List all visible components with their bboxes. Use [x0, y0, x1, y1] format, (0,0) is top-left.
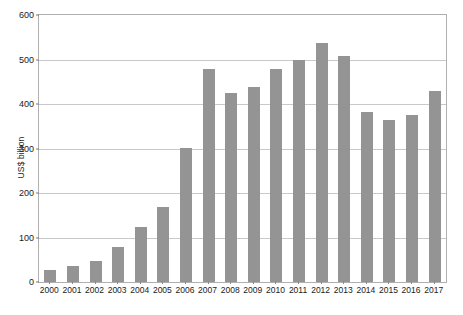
x-axis-tick-mark	[366, 281, 367, 284]
x-axis-tick-labels: 2000200120022003200420052006200720082009…	[38, 285, 447, 305]
x-axis-tick-label: 2000	[40, 285, 59, 295]
x-axis-tick-label: 2008	[221, 285, 240, 295]
x-axis-tick-label: 2001	[62, 285, 81, 295]
x-axis-tick-label: 2006	[176, 285, 195, 295]
x-axis-tick-label: 2010	[266, 285, 285, 295]
x-axis-tick-label: 2002	[85, 285, 104, 295]
bars	[39, 15, 446, 282]
x-axis-tick-label: 2004	[130, 285, 149, 295]
x-axis-tick-mark	[49, 281, 50, 284]
x-axis-tick-label: 2015	[379, 285, 398, 295]
bar[interactable]	[203, 69, 215, 282]
bar[interactable]	[157, 207, 169, 282]
bar[interactable]	[135, 227, 147, 282]
x-axis-tick-label: 2017	[424, 285, 443, 295]
bar-slot	[356, 15, 379, 282]
bar-slot	[401, 15, 424, 282]
bar[interactable]	[293, 60, 305, 282]
x-axis-tick-mark	[298, 281, 299, 284]
x-axis-tick-label: 2003	[108, 285, 127, 295]
y-axis-tick-label: 0	[29, 277, 34, 287]
x-axis-tick-mark	[140, 281, 141, 284]
x-axis-tick-label: 2011	[289, 285, 307, 295]
x-axis-tick-label: 2014	[356, 285, 375, 295]
y-axis-tick-label: 100	[19, 233, 34, 243]
x-axis-tick-mark	[434, 281, 435, 284]
x-axis-tick-label: 2007	[198, 285, 217, 295]
x-axis-tick-mark	[411, 281, 412, 284]
x-axis-tick-label: 2016	[402, 285, 421, 295]
bar-slot	[265, 15, 288, 282]
x-axis-tick-mark	[253, 281, 254, 284]
bar[interactable]	[44, 270, 56, 282]
bar-slot	[197, 15, 220, 282]
bar-slot	[107, 15, 130, 282]
bar[interactable]	[361, 112, 373, 282]
bar[interactable]	[90, 261, 102, 282]
x-axis-tick-mark	[208, 281, 209, 284]
bar-slot	[243, 15, 266, 282]
x-axis-tick-mark	[117, 281, 118, 284]
x-axis-tick-mark	[72, 281, 73, 284]
bar-slot	[423, 15, 446, 282]
y-axis-tick-label: 400	[19, 99, 34, 109]
bar[interactable]	[270, 69, 282, 282]
bar[interactable]	[316, 43, 328, 282]
x-axis-tick-mark	[321, 281, 322, 284]
x-axis-tick-label: 2009	[243, 285, 262, 295]
y-axis-tick-label: 600	[19, 10, 34, 20]
x-axis-tick-label: 2005	[153, 285, 172, 295]
y-axis-title: US$ billion	[14, 0, 28, 315]
y-axis-tick-label: 500	[19, 55, 34, 65]
bar[interactable]	[225, 93, 237, 282]
x-axis-tick-label: 2012	[311, 285, 330, 295]
bar-slot	[84, 15, 107, 282]
x-axis-tick-mark	[388, 281, 389, 284]
bar-slot	[310, 15, 333, 282]
plot-area: 0100200300400500600	[38, 14, 447, 283]
bar-slot	[129, 15, 152, 282]
bar-slot	[62, 15, 85, 282]
x-axis-tick-mark	[343, 281, 344, 284]
x-axis-tick-mark	[230, 281, 231, 284]
bar[interactable]	[180, 148, 192, 282]
bar-slot	[378, 15, 401, 282]
x-axis-tick-mark	[162, 281, 163, 284]
x-axis-tick-mark	[275, 281, 276, 284]
bar-chart: US$ billion 0100200300400500600 20002001…	[0, 0, 463, 315]
bar-slot	[39, 15, 62, 282]
bar[interactable]	[429, 91, 441, 282]
x-axis-tick-mark	[185, 281, 186, 284]
bar[interactable]	[406, 115, 418, 282]
y-axis-tick-label: 300	[19, 144, 34, 154]
bar[interactable]	[338, 56, 350, 283]
bar[interactable]	[383, 120, 395, 282]
bar-slot	[175, 15, 198, 282]
bar-slot	[152, 15, 175, 282]
bar[interactable]	[112, 247, 124, 282]
x-axis-tick-label: 2013	[334, 285, 353, 295]
y-axis-tick-label: 200	[19, 188, 34, 198]
bar[interactable]	[67, 266, 79, 282]
bar-slot	[333, 15, 356, 282]
bar[interactable]	[248, 87, 260, 282]
bar-slot	[220, 15, 243, 282]
x-axis-tick-mark	[95, 281, 96, 284]
bar-slot	[288, 15, 311, 282]
